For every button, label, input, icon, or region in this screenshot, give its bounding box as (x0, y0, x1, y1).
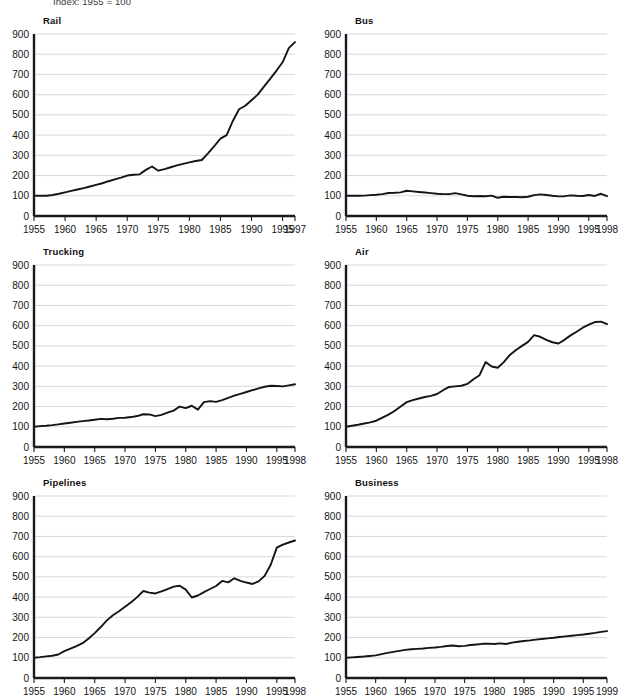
svg-text:1975: 1975 (456, 224, 479, 235)
chart-plot-bus: 0100200300400500600700800900195519601965… (312, 12, 623, 244)
svg-text:500: 500 (12, 571, 29, 582)
svg-text:1960: 1960 (53, 455, 76, 466)
svg-text:0: 0 (23, 211, 29, 222)
svg-text:1980: 1980 (483, 686, 506, 696)
chart-plot-trucking: 0100200300400500600700800900195519601965… (0, 243, 311, 475)
svg-text:900: 900 (324, 491, 341, 502)
svg-text:1990: 1990 (235, 686, 258, 696)
svg-text:1999: 1999 (596, 686, 619, 696)
svg-text:500: 500 (324, 109, 341, 120)
svg-text:700: 700 (12, 300, 29, 311)
svg-text:0: 0 (335, 442, 341, 453)
svg-text:0: 0 (335, 211, 341, 222)
svg-text:900: 900 (324, 260, 341, 271)
svg-text:1965: 1965 (85, 224, 108, 235)
svg-text:800: 800 (12, 511, 29, 522)
svg-text:1985: 1985 (209, 224, 232, 235)
chart-panel-rail: Rail010020030040050060070080090019551960… (0, 12, 311, 244)
small-multiples-grid: Rail010020030040050060070080090019551960… (0, 0, 623, 696)
svg-text:600: 600 (12, 320, 29, 331)
svg-text:200: 200 (324, 401, 341, 412)
svg-text:500: 500 (12, 340, 29, 351)
svg-text:100: 100 (324, 421, 341, 432)
chart-plot-rail: 0100200300400500600700800900195519601965… (0, 12, 311, 244)
svg-text:1997: 1997 (284, 224, 307, 235)
svg-text:1965: 1965 (84, 455, 107, 466)
svg-text:1980: 1980 (487, 224, 510, 235)
svg-text:1960: 1960 (365, 455, 388, 466)
svg-text:300: 300 (324, 612, 341, 623)
svg-text:300: 300 (324, 150, 341, 161)
svg-text:800: 800 (12, 49, 29, 60)
svg-text:100: 100 (324, 190, 341, 201)
svg-text:1975: 1975 (456, 455, 479, 466)
svg-text:1990: 1990 (240, 224, 263, 235)
svg-text:600: 600 (324, 89, 341, 100)
svg-text:1975: 1975 (144, 455, 167, 466)
svg-text:300: 300 (12, 150, 29, 161)
svg-text:800: 800 (324, 511, 341, 522)
svg-text:300: 300 (12, 381, 29, 392)
svg-text:500: 500 (12, 109, 29, 120)
svg-text:0: 0 (335, 673, 341, 684)
svg-text:1960: 1960 (54, 224, 77, 235)
svg-text:1955: 1955 (23, 224, 46, 235)
svg-text:300: 300 (324, 381, 341, 392)
svg-text:200: 200 (324, 170, 341, 181)
svg-text:700: 700 (12, 69, 29, 80)
svg-text:1980: 1980 (175, 686, 198, 696)
svg-text:300: 300 (12, 612, 29, 623)
chart-plot-air: 0100200300400500600700800900195519601965… (312, 243, 623, 475)
svg-text:900: 900 (12, 260, 29, 271)
svg-text:1960: 1960 (365, 686, 388, 696)
chart-title-bus: Bus (355, 15, 374, 26)
svg-text:800: 800 (324, 280, 341, 291)
svg-text:200: 200 (324, 632, 341, 643)
svg-text:1955: 1955 (335, 455, 358, 466)
svg-text:1985: 1985 (205, 686, 228, 696)
svg-text:1960: 1960 (365, 224, 388, 235)
svg-text:800: 800 (12, 280, 29, 291)
chart-plot-business: 0100200300400500600700800900195519601965… (312, 474, 623, 696)
svg-text:0: 0 (23, 673, 29, 684)
svg-text:600: 600 (12, 551, 29, 562)
svg-text:1990: 1990 (235, 455, 258, 466)
svg-text:400: 400 (324, 361, 341, 372)
svg-text:500: 500 (324, 571, 341, 582)
chart-plot-pipelines: 0100200300400500600700800900195519601965… (0, 474, 311, 696)
svg-text:100: 100 (324, 652, 341, 663)
svg-text:1970: 1970 (424, 686, 447, 696)
chart-panel-business: Business01002003004005006007008009001955… (312, 474, 623, 696)
svg-text:1965: 1965 (84, 686, 107, 696)
svg-text:1955: 1955 (335, 686, 358, 696)
svg-text:1965: 1965 (394, 686, 417, 696)
chart-title-air: Air (355, 246, 369, 257)
svg-text:1955: 1955 (23, 686, 46, 696)
chart-title-trucking: Trucking (43, 246, 84, 257)
svg-text:1970: 1970 (426, 224, 449, 235)
svg-text:1990: 1990 (547, 224, 570, 235)
chart-title-rail: Rail (43, 15, 61, 26)
svg-text:700: 700 (324, 69, 341, 80)
svg-text:1980: 1980 (175, 455, 198, 466)
chart-title-pipelines: Pipelines (43, 477, 87, 488)
svg-text:700: 700 (12, 531, 29, 542)
chart-panel-air: Air0100200300400500600700800900195519601… (312, 243, 623, 475)
svg-text:1970: 1970 (426, 455, 449, 466)
svg-text:1998: 1998 (284, 455, 307, 466)
svg-text:1955: 1955 (23, 455, 46, 466)
svg-text:200: 200 (12, 632, 29, 643)
svg-text:1980: 1980 (487, 455, 510, 466)
svg-text:800: 800 (324, 49, 341, 60)
svg-text:600: 600 (12, 89, 29, 100)
svg-text:100: 100 (12, 421, 29, 432)
svg-text:400: 400 (12, 361, 29, 372)
svg-text:1975: 1975 (147, 224, 170, 235)
svg-text:700: 700 (324, 300, 341, 311)
svg-text:1970: 1970 (114, 686, 137, 696)
chart-panel-trucking: Trucking01002003004005006007008009001955… (0, 243, 311, 475)
svg-text:1985: 1985 (205, 455, 228, 466)
svg-text:500: 500 (324, 340, 341, 351)
svg-text:100: 100 (12, 190, 29, 201)
svg-text:900: 900 (12, 491, 29, 502)
